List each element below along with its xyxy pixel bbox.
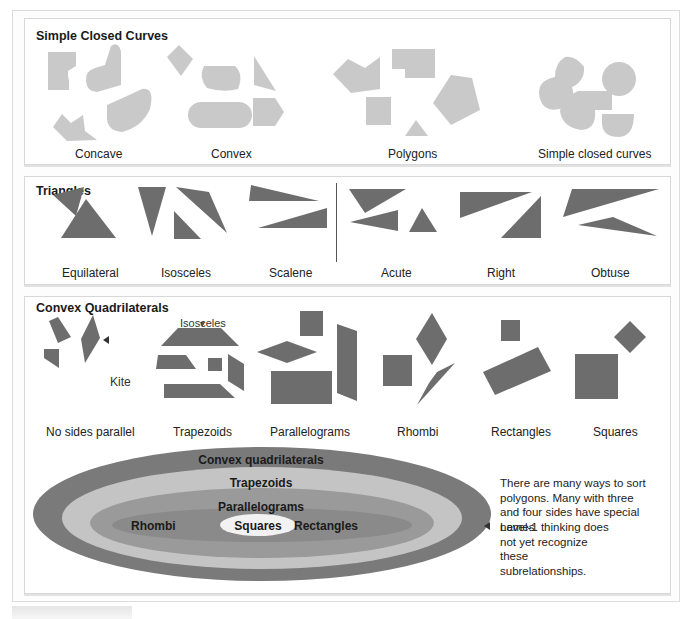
equilateral-triangles-icon — [53, 187, 116, 238]
panel-triangles: Triangles Equilateral Iso — [24, 176, 671, 285]
simple-closed-curves-icon — [539, 57, 636, 137]
caption-polygons: Polygons — [388, 147, 437, 161]
caption-right: Right — [487, 266, 515, 280]
panel-convex-quadrilaterals: Convex Quadrilaterals — [24, 296, 671, 594]
triangles-shapes — [25, 177, 670, 284]
scalene-triangles-icon — [249, 185, 327, 228]
caption-equilateral: Equilateral — [62, 266, 119, 280]
simple-closed-curves-shapes — [25, 19, 670, 164]
obtuse-triangles-icon — [563, 189, 659, 236]
label-rectangles: Rectangles — [294, 519, 358, 533]
level-note-text: Level-1 thinking does not yet recognize … — [500, 520, 610, 578]
label-rhombi: Rhombi — [131, 519, 176, 533]
caption-concave: Concave — [75, 147, 122, 161]
caption-scalene: Scalene — [269, 266, 312, 280]
concave-shapes-icon — [48, 44, 151, 141]
acute-triangles-icon — [349, 189, 437, 232]
caption-convex: Convex — [211, 147, 252, 161]
right-triangles-icon — [460, 192, 541, 238]
isosceles-triangles-icon — [138, 187, 227, 239]
label-parallelograms: Parallelograms — [201, 500, 321, 514]
polygons-shapes-icon — [333, 49, 480, 136]
caption-isosceles: Isosceles — [161, 266, 211, 280]
label-trapezoids: Trapezoids — [211, 476, 311, 490]
caption-acute: Acute — [381, 266, 412, 280]
panel-simple-closed-curves: Simple Closed Curves — [24, 18, 671, 165]
label-convex-quadrilaterals: Convex quadrilaterals — [191, 453, 331, 467]
divider-line — [336, 183, 337, 262]
caption-simple-closed-curves: Simple closed curves — [538, 147, 651, 161]
caption-obtuse: Obtuse — [591, 266, 630, 280]
label-squares: Squares — [228, 519, 288, 533]
convex-shapes-icon — [167, 45, 284, 128]
figure-caption-fragment — [12, 606, 132, 619]
